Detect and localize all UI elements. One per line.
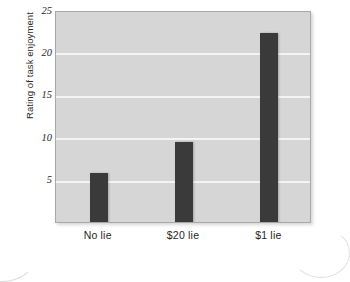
y-axis-tick-label: 25 <box>30 6 52 17</box>
plot-inner <box>56 12 310 222</box>
bar <box>90 173 108 222</box>
y-axis-tick-label: 5 <box>30 175 52 186</box>
y-axis-tick-label: 20 <box>30 48 52 59</box>
x-axis-tick-label: No lie <box>53 229 143 241</box>
x-axis-tick-label: $1 lie <box>223 229 313 241</box>
y-axis-tick-label: 15 <box>30 90 52 101</box>
plot-area <box>55 11 311 223</box>
bar <box>175 142 193 222</box>
y-axis-tick-labels: 510152025 <box>24 0 52 256</box>
x-axis-tick-label: $20 lie <box>138 229 228 241</box>
y-axis-tick-label: 10 <box>30 133 52 144</box>
bar <box>260 33 278 222</box>
